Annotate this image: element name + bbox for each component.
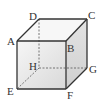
vertex-label-D: D — [29, 10, 37, 22]
vertex-label-F: F — [67, 89, 73, 101]
cube-diagram: D C A B H G E F — [0, 0, 106, 104]
vertex-label-C: C — [88, 9, 95, 21]
vertex-label-B: B — [67, 42, 74, 54]
front-face — [17, 41, 66, 89]
vertex-label-G: G — [89, 63, 97, 75]
vertex-label-H: H — [29, 60, 37, 72]
vertex-label-E: E — [7, 85, 14, 97]
vertex-label-A: A — [7, 35, 15, 47]
cube-svg: D C A B H G E F — [0, 0, 106, 104]
